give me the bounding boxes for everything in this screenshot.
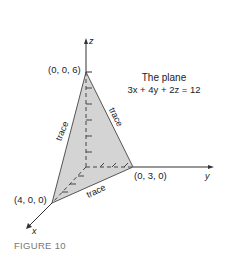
plane-title-line1: The plane: [120, 72, 208, 84]
y-intercept-label: (0, 3, 0): [134, 170, 167, 181]
x-axis-label: x: [32, 226, 37, 236]
z-intercept-label: (0, 0, 6): [48, 64, 81, 75]
z-axis-label: z: [89, 36, 94, 46]
x-axis: [29, 203, 52, 226]
plane-equation: 3x + 4y + 2z = 12: [120, 84, 208, 96]
figure-caption: FIGURE 10: [14, 240, 66, 251]
y-axis-label: y: [205, 171, 210, 181]
y-arrow-icon: [208, 165, 214, 169]
plane-title: The plane 3x + 4y + 2z = 12: [120, 72, 208, 96]
z-arrow-icon: [84, 38, 88, 44]
x-intercept-label: (4, 0, 0): [14, 194, 47, 205]
